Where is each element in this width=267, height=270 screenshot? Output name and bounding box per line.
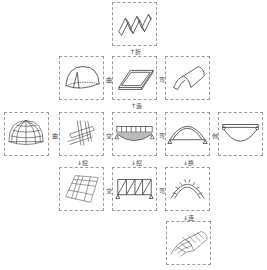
flat-plate-icon [113,57,156,99]
arch-icon [166,113,209,155]
node-lattice-vault [166,221,211,265]
edge-label-cross-mid: 交 [105,132,112,139]
node-geodesic-dome [4,112,49,156]
loaded-beam-icon [113,113,156,155]
segmented-arch-icon [166,168,209,210]
lattice-vault-icon [167,222,210,264]
node-barrel-shell [165,56,210,100]
node-arch [165,112,210,156]
edge-label-swap: ↓换 [183,159,194,166]
node-loaded-beam [112,112,157,156]
node-cross-beams [59,112,104,156]
node-flat-plate [112,56,157,100]
grid-slab-icon [60,168,103,210]
edge-label-bend-top: 弯 [158,76,165,83]
edge-label-invert: 倒 [211,132,218,139]
edge-label-dig-mid: ↓挖 [131,159,142,166]
node-suspension [218,112,263,156]
edge-label-curve-mid: 曲 [51,132,58,139]
cross-beams-icon [60,113,103,155]
edge-label-bend-bot: 弯 [158,187,165,194]
node-segmented-arch [165,167,210,211]
barrel-shell-icon [166,57,209,99]
dome-shell-icon [60,57,103,99]
edge-label-bend-mid: 弯 [158,132,165,139]
folded-plate-icon [113,3,156,45]
edge-label-fold: ↑折 [130,48,141,55]
edge-label-cross-bot: 交 [105,187,112,194]
edge-label-curve-top: 曲 [105,76,112,83]
truss-icon [113,168,156,210]
node-folded-plate [112,2,157,46]
edge-label-dig-left: ↓挖 [77,159,88,166]
suspension-cable-icon [219,113,262,155]
node-dome-shell [59,56,104,100]
node-truss [112,167,157,211]
grid-dome-icon [5,113,48,155]
edge-label-build: ↑造 [131,102,142,109]
node-grid-slab [59,167,104,211]
edge-label-connect: ↓连 [183,214,194,221]
